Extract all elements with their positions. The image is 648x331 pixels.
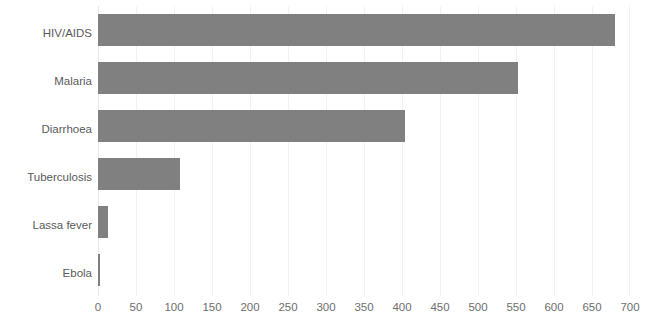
x-tick-450: 450 (430, 302, 449, 314)
y-axis-label-4: Lassa fever (0, 220, 92, 232)
x-tick-50: 50 (130, 302, 143, 314)
bar-row (98, 206, 630, 238)
x-tick-350: 350 (354, 302, 373, 314)
gridline-250 (288, 6, 289, 296)
bar-row (98, 14, 630, 46)
gridline-450 (440, 6, 441, 296)
gridline-600 (554, 6, 555, 296)
x-tick-500: 500 (468, 302, 487, 314)
y-axis-label-1: Malaria (0, 76, 92, 88)
bar-lassa-fever[interactable] (98, 206, 108, 238)
bar-hiv-aids[interactable] (98, 14, 615, 46)
y-axis-category-labels: HIV/AIDS Malaria Diarrhoea Tuberculosis … (0, 6, 92, 296)
y-axis-label-5: Ebola (0, 268, 92, 280)
y-axis-label-2: Diarrhoea (0, 124, 92, 136)
x-tick-700: 700 (620, 302, 639, 314)
bar-row (98, 254, 630, 286)
x-tick-200: 200 (240, 302, 259, 314)
x-tick-650: 650 (582, 302, 601, 314)
gridline-300 (326, 6, 327, 296)
bar-ebola[interactable] (98, 254, 100, 286)
bar-tuberculosis[interactable] (98, 158, 180, 190)
gridline-700 (629, 6, 630, 296)
bar-row (98, 62, 630, 94)
x-tick-150: 150 (202, 302, 221, 314)
y-axis-label-0: HIV/AIDS (0, 28, 92, 40)
gridline-550 (516, 6, 517, 296)
x-tick-250: 250 (278, 302, 297, 314)
gridline-200 (250, 6, 251, 296)
gridline-0 (98, 6, 99, 296)
x-tick-600: 600 (544, 302, 563, 314)
gridline-650 (592, 6, 593, 296)
x-axis-tick-labels: 0 50 100 150 200 250 300 350 400 450 500… (0, 302, 648, 322)
x-tick-0: 0 (95, 302, 101, 314)
x-tick-300: 300 (316, 302, 335, 314)
bar-chart: HIV/AIDS Malaria Diarrhoea Tuberculosis … (0, 0, 648, 331)
x-tick-550: 550 (506, 302, 525, 314)
plot-area (98, 6, 630, 296)
x-tick-400: 400 (392, 302, 411, 314)
bar-diarrhoea[interactable] (98, 110, 405, 142)
gridline-50 (136, 6, 137, 296)
gridline-100 (174, 6, 175, 296)
gridline-350 (364, 6, 365, 296)
bar-row (98, 158, 630, 190)
bar-row (98, 110, 630, 142)
y-axis-label-3: Tuberculosis (0, 172, 92, 184)
gridline-500 (478, 6, 479, 296)
gridline-400 (402, 6, 403, 296)
bar-malaria[interactable] (98, 62, 518, 94)
gridline-150 (212, 6, 213, 296)
x-tick-100: 100 (164, 302, 183, 314)
